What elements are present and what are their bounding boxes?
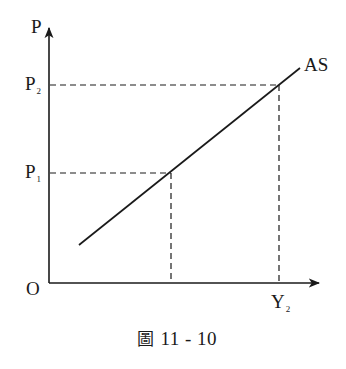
y2-label: Y2 <box>271 292 290 311</box>
as-curve-label: AS <box>304 55 328 74</box>
y2-label-sub: 2 <box>286 304 291 314</box>
p2-label-main: P <box>25 73 36 94</box>
as-curve-label-text: AS <box>304 54 328 75</box>
p1-label-sub: 1 <box>37 174 42 184</box>
y2-label-main: Y <box>271 291 285 312</box>
y-axis-label: P <box>31 17 42 36</box>
as-curve-diagram <box>0 0 346 369</box>
origin-label: O <box>26 279 40 298</box>
p1-label-main: P <box>25 161 36 182</box>
p2-label-sub: 2 <box>37 86 42 96</box>
caption-number: 11 - 10 <box>161 328 218 349</box>
as-curve <box>79 68 300 245</box>
figure-caption: 圖11 - 10 <box>137 329 217 348</box>
p2-label: P2 <box>25 74 41 93</box>
y-axis-label-text: P <box>31 16 42 37</box>
p1-label: P1 <box>25 162 41 181</box>
origin-label-text: O <box>26 278 40 299</box>
caption-figure-glyph: 圖 <box>137 329 155 349</box>
